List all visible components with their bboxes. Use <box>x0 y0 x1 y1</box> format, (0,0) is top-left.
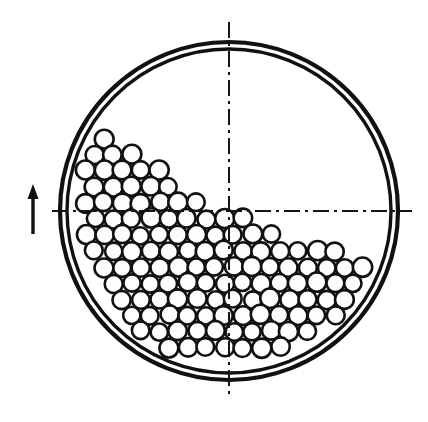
charge-particle <box>289 242 306 259</box>
charge-particle <box>179 338 198 357</box>
charge-particle <box>123 274 140 291</box>
charge-particle <box>243 225 262 244</box>
charge-particle <box>196 338 214 356</box>
charge-particle <box>132 322 150 340</box>
charge-particle <box>216 338 234 356</box>
charge-particle <box>307 272 326 291</box>
charge-particle <box>150 226 168 244</box>
drum-cross-section-figure: Cross-section of rotating drum (tumbling… <box>0 0 428 422</box>
charge-particle <box>234 339 252 357</box>
charge-particle <box>113 225 131 243</box>
charge-particle <box>271 337 289 355</box>
charge-particle <box>85 242 103 260</box>
charge-particle <box>188 289 207 308</box>
charge-particle <box>307 306 325 324</box>
charge-particle <box>159 339 178 358</box>
charge-particle <box>243 323 260 340</box>
rotation-arrow-head <box>28 184 39 199</box>
charge-particle <box>142 242 160 260</box>
charge-particle <box>252 339 271 358</box>
charge-particle <box>94 193 112 211</box>
charge-particle <box>105 243 122 260</box>
charge-particle <box>234 274 251 291</box>
drum-diagram-svg <box>0 0 428 422</box>
charge-particle <box>263 225 280 242</box>
charge-particle <box>224 290 242 308</box>
charge-particle <box>168 322 187 341</box>
rotation-direction-arrow <box>28 184 39 234</box>
charge-particle <box>261 258 279 276</box>
charge-particle <box>327 306 345 324</box>
charge-particle <box>206 321 225 340</box>
charge-particle <box>299 322 317 340</box>
